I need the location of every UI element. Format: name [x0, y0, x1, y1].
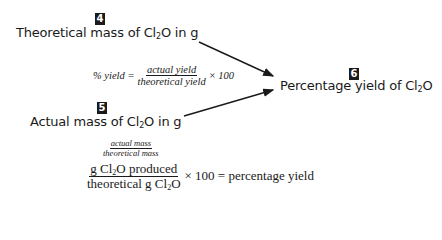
arrow-theoretical-icon: [199, 42, 273, 76]
mass-ratio-annotation: actual mass theoretical mass: [103, 139, 159, 158]
arrow-actual-icon: [184, 90, 273, 116]
percentage-yield-equation: g Cl2O produced theoretical g Cl2O × 100…: [87, 162, 314, 190]
grams-fraction: g Cl2O produced theoretical g Cl2O: [87, 162, 181, 190]
